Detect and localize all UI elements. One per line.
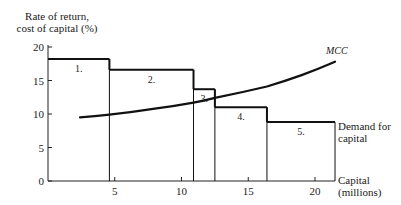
project-label: 4. [237,111,245,122]
project-label: 1. [75,63,83,74]
x-axis-label-line1: Capital [338,174,381,186]
project-bars: 1.2.3.4.5. [48,59,335,181]
x-axis-label: Capital (millions) [338,174,381,198]
demand-label: Demand for capital [338,120,391,144]
x-tick-label: 10 [176,185,188,197]
project-label: 2. [148,74,156,85]
x-tick-label: 5 [112,185,118,197]
demand-label-line1: Demand for [338,120,391,132]
y-tick-label: 10 [33,108,45,120]
x-tick-label: 20 [310,185,322,197]
y-tick-label: 15 [33,75,45,87]
y-axis-label-line1: Rate of return, [2,10,112,22]
project-label: 3. [200,93,208,104]
y-axis-label: Rate of return, cost of capital (%) [2,10,112,34]
y-tick-label: 0 [39,175,45,187]
x-axis-label-line2: (millions) [338,186,381,198]
mcc-label: MCC [326,45,348,57]
x-tick-label: 15 [243,185,255,197]
y-tick-label: 20 [33,41,45,53]
demand-label-line2: capital [338,132,391,144]
y-tick-label: 5 [39,142,45,154]
project-label: 5. [297,126,305,137]
y-axis-label-line2: cost of capital (%) [2,22,112,34]
